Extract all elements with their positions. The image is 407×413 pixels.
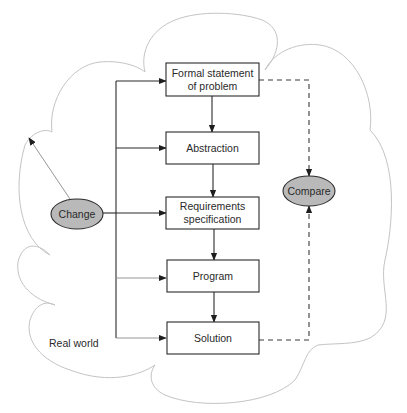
oval-change: Change	[51, 199, 103, 229]
change-distribution-lines	[103, 81, 166, 338]
box-requirements-specification: Requirements specification	[166, 197, 259, 229]
box-requirements-line1: Requirements	[180, 200, 245, 212]
change-to-real-world-arrow	[29, 138, 70, 199]
box-formal-line1: Formal statement	[172, 67, 254, 79]
box-abstraction: Abstraction	[166, 132, 259, 164]
box-solution: Solution	[167, 322, 259, 354]
box-formal-line2: of problem	[188, 80, 238, 92]
box-abstraction-label: Abstraction	[186, 142, 239, 154]
compare-dashed-lines	[259, 80, 309, 340]
diagram-canvas: Formal statement of problem Abstraction …	[0, 0, 407, 413]
oval-change-label: Change	[59, 208, 96, 220]
box-requirements-line2: specification	[184, 213, 242, 225]
box-formal-statement: Formal statement of problem	[166, 63, 259, 96]
oval-compare-label: Compare	[287, 185, 330, 197]
real-world-label: Real world	[49, 337, 99, 349]
box-program-label: Program	[193, 270, 234, 282]
oval-compare: Compare	[283, 176, 335, 206]
box-program: Program	[167, 260, 259, 292]
box-solution-label: Solution	[194, 332, 232, 344]
